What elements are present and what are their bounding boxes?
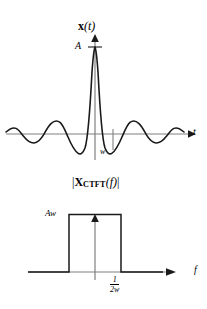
freq-title-bar-right: |	[117, 175, 119, 189]
spectrum-height-label: Aw	[45, 209, 56, 218]
freq-title-function: X	[74, 175, 83, 189]
time-axis-arrow-up	[91, 34, 99, 42]
freq-axis-label: f	[194, 265, 197, 275]
pulse-width-label: w	[100, 148, 105, 156]
freq-plot-title: |XCTFT(f)|	[72, 176, 119, 189]
cutoff-fraction: 1 2w	[110, 276, 119, 295]
cutoff-denominator: 2w	[110, 285, 119, 294]
amplitude-label: A	[75, 41, 81, 51]
freq-title-variable: (f)	[106, 175, 117, 189]
cutoff-numerator: 1	[110, 276, 119, 285]
figure-container: x(t) A t w |XCTFT(f)| Aw f 1 2w	[0, 0, 207, 309]
time-axis-label: t	[193, 127, 196, 137]
time-plot-title-variable: (t)	[84, 19, 95, 33]
frequency-domain-plot: |XCTFT(f)| Aw f 1 2w	[0, 168, 207, 309]
freq-title-subscript: CTFT	[83, 180, 106, 189]
time-domain-svg	[0, 0, 207, 168]
freq-axis-arrow-right	[166, 268, 176, 276]
time-plot-title: x(t)	[78, 20, 95, 32]
cutoff-frequency-label: 1 2w	[110, 276, 119, 295]
time-domain-plot: x(t) A t w	[0, 0, 207, 168]
